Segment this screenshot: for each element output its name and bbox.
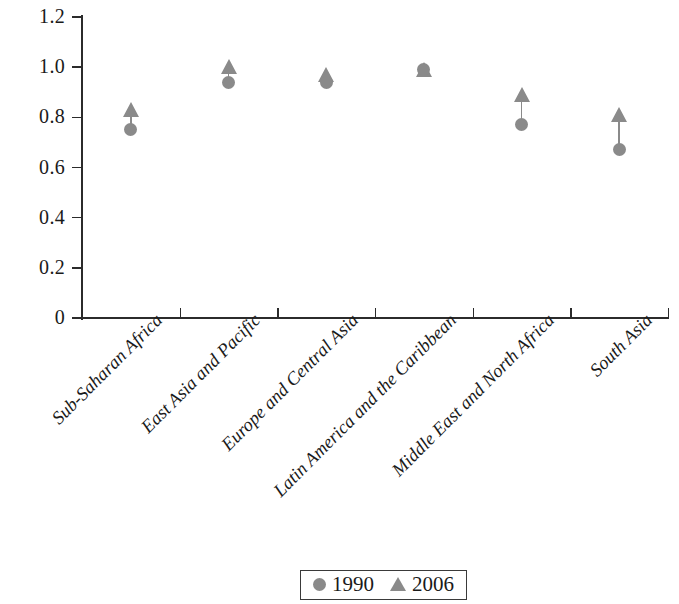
circle-marker-icon (515, 118, 528, 131)
legend-label-1990: 1990 (332, 573, 374, 595)
y-axis-tick-label: 1.2 (0, 6, 65, 26)
y-axis-tick-label: 1.0 (0, 56, 65, 76)
plot-area (82, 17, 667, 318)
legend-item-1990: 1990 (313, 573, 374, 595)
x-axis-tick (668, 308, 669, 319)
y-axis-tick (72, 117, 82, 118)
circle-marker-icon (124, 123, 137, 136)
triangle-marker-icon (123, 102, 139, 117)
y-axis-tick (72, 317, 82, 318)
y-axis-tick-label: 0.4 (0, 207, 65, 227)
circle-marker-icon (613, 143, 626, 156)
y-axis-tick (72, 267, 82, 268)
y-axis-tick (72, 66, 82, 67)
triangle-marker-icon (221, 59, 237, 74)
y-axis-tick-label: 0.8 (0, 106, 65, 126)
x-axis-category-label: East Asia and Pacific (73, 310, 265, 502)
y-axis-tick-label: 0.2 (0, 257, 65, 277)
y-axis-tick (72, 16, 82, 17)
circle-marker-icon (320, 76, 333, 89)
y-axis-tick (72, 167, 82, 168)
legend-label-2006: 2006 (412, 573, 454, 595)
y-axis-tick (72, 217, 82, 218)
legend-item-2006: 2006 (390, 573, 454, 595)
triangle-marker-icon (611, 107, 627, 122)
circle-marker-icon (313, 578, 326, 591)
chart-legend: 1990 2006 (300, 570, 467, 600)
triangle-marker-icon (514, 87, 530, 102)
y-axis-tick-label: 0.6 (0, 157, 65, 177)
y-axis-tick-label: 0 (0, 307, 65, 327)
circle-marker-icon (222, 76, 235, 89)
triangle-marker-icon (390, 577, 406, 591)
